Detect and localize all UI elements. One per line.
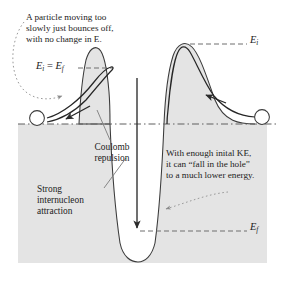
Ef-right-subscript: f — [256, 226, 258, 234]
right-note-text: With enough inital KE, it can “fall in t… — [166, 148, 274, 181]
label-Ef-right: Ef — [250, 221, 258, 234]
Ei-right-subscript: i — [256, 39, 258, 47]
top-note-text: A particle moving too slowly just bounce… — [26, 12, 148, 45]
coulomb-repulsion-label: Coulomb repulsion — [75, 142, 149, 164]
strong-attraction-label: Strong internucleon attraction — [37, 184, 115, 217]
particle-left — [30, 111, 45, 126]
Ef-subscript: f — [62, 65, 64, 73]
figure-canvas: A particle moving too slowly just bounce… — [0, 0, 285, 281]
label-Ei-equals-Ef: Ei = Ef — [36, 60, 64, 73]
particle-right — [255, 110, 270, 125]
equals-sign: = — [44, 60, 55, 71]
label-Ei-right: Ei — [250, 34, 258, 47]
